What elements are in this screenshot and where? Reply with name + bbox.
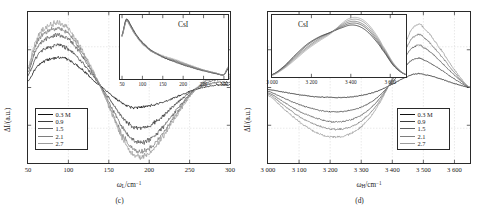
legend-item-label: 1.5 (418, 125, 426, 132)
legend-line-swatch (38, 121, 53, 122)
x-tick-label: 3 600 (447, 166, 462, 173)
legend-line-swatch (38, 136, 53, 137)
panel-d-x-axis-unit: /cm (365, 181, 376, 189)
x-tick-label: 3 100 (292, 166, 307, 173)
panel-d-inset: CsI (271, 14, 407, 78)
panel-d-caption: (d) (240, 196, 479, 205)
legend-item[interactable]: 0.3 M (38, 111, 84, 118)
legend-item[interactable]: 1.5 (400, 125, 446, 132)
legend-line-swatch (400, 143, 415, 144)
legend-item[interactable]: 0.9 (400, 118, 446, 125)
legend-line-swatch (400, 128, 415, 129)
legend-item[interactable]: 2.1 (400, 133, 446, 140)
x-tick-label: 3 500 (416, 166, 431, 173)
x-tick-label: 300 (225, 166, 235, 173)
panel-d-x-axis-label: ωH/cm−1 (267, 180, 471, 189)
panel-c-y-axis-label: ΔI/(a.u.) (4, 108, 12, 132)
panel-d-legend: 0.3 M0.91.52.12.7 (397, 108, 450, 150)
x-tick-label: 100 (139, 81, 147, 87)
panel-d-inset-x-ticklabels: 3 0003 2003 4003 600 (271, 79, 407, 87)
legend-item[interactable]: 0.3 M (400, 111, 446, 118)
legend-item-label: 0.3 M (418, 111, 433, 118)
x-tick-label: 3 200 (306, 79, 318, 85)
x-tick-label: 3 000 (266, 79, 278, 85)
legend-item-label: 1.5 (56, 125, 64, 132)
legend-item[interactable]: 2.1 (38, 133, 84, 140)
x-tick-label: 200 (144, 166, 154, 173)
x-tick-label: 50 (25, 166, 32, 173)
legend-item-label: 2.1 (56, 133, 64, 140)
panel-d-x-ticklabels: 3 0003 1003 2003 3003 4003 5003 600 (267, 166, 471, 176)
legend-line-swatch (400, 114, 415, 115)
x-tick-label: 250 (200, 81, 208, 87)
x-tick-label: 3 300 (354, 166, 369, 173)
panel-c: ΔI/(a.u.) CsI 50100150200250300 0.3 M0.9… (0, 0, 239, 216)
panel-c-x-ticklabels: 50100150200250300 (27, 166, 231, 176)
legend-item-label: 0.9 (418, 118, 426, 125)
legend-item-label: 0.3 M (56, 111, 71, 118)
legend-line-swatch (400, 136, 415, 137)
x-tick-label: 150 (159, 81, 167, 87)
legend-item[interactable]: 2.7 (38, 140, 84, 147)
legend-line-swatch (400, 121, 415, 122)
x-tick-label: 50 (119, 81, 124, 87)
legend-item[interactable]: 1.5 (38, 125, 84, 132)
panel-c-x-axis-unit: /cm (125, 181, 136, 189)
x-tick-label: 100 (63, 166, 73, 173)
x-tick-label: 3 000 (261, 166, 276, 173)
panel-c-x-axis-exponent: −1 (136, 180, 142, 186)
legend-item-label: 0.9 (56, 118, 64, 125)
panel-c-x-axis-label: ωL/cm−1 (27, 180, 231, 189)
legend-item-label: 2.1 (418, 133, 426, 140)
x-tick-label: 250 (185, 166, 195, 173)
figure-panels-c-d: ΔI/(a.u.) CsI 50100150200250300 0.3 M0.9… (0, 0, 479, 216)
x-tick-label: 3 400 (385, 166, 400, 173)
panel-c-caption: (c) (0, 196, 239, 205)
panel-d: ΔI/(a.u.) CsI 3 0003 2003 4003 600 0.3 M… (240, 0, 479, 216)
legend-item-label: 2.7 (56, 140, 64, 147)
panel-d-inset-title: CsI (298, 20, 308, 29)
legend-line-swatch (38, 114, 53, 115)
legend-line-swatch (38, 128, 53, 129)
panel-c-inset-x-ticklabels: 50100150200250300 (119, 81, 229, 89)
panel-d-x-axis-exponent: −1 (376, 180, 382, 186)
x-tick-label: 200 (179, 81, 187, 87)
legend-line-swatch (38, 143, 53, 144)
x-tick-label: 150 (104, 166, 114, 173)
panel-d-y-axis-label: ΔI/(a.u.) (244, 108, 252, 132)
x-tick-label: 300 (220, 81, 228, 87)
x-tick-label: 3 200 (323, 166, 338, 173)
panel-c-legend: 0.3 M0.91.52.12.7 (35, 108, 88, 150)
legend-item[interactable]: 2.7 (400, 140, 446, 147)
panel-c-inset-title: CsI (178, 20, 188, 29)
x-tick-label: 3 400 (345, 79, 357, 85)
legend-item[interactable]: 0.9 (38, 118, 84, 125)
panel-c-inset: CsI (119, 14, 229, 80)
legend-item-label: 2.7 (418, 140, 426, 147)
x-tick-label: 3 600 (384, 79, 396, 85)
